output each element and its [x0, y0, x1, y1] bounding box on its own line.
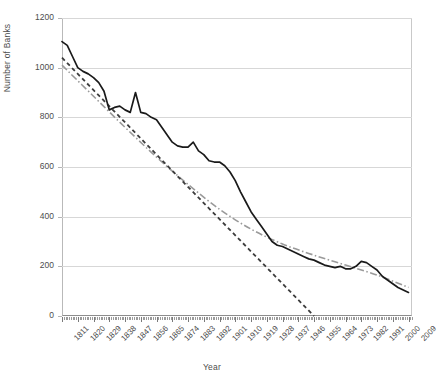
bank-count-line	[62, 42, 409, 293]
power-trend-line	[62, 65, 409, 287]
linear-trend-line	[62, 58, 314, 316]
